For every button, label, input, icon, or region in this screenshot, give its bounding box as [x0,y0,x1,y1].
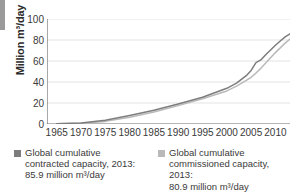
y-tick-0: 0 [38,119,44,130]
x-tick-1985: 1985 [143,127,165,139]
x-tick-1995: 1995 [191,127,213,139]
x-tick-1975: 1975 [94,127,116,139]
x-tick-1990: 1990 [167,127,189,139]
x-axis-tick-labels: 1965197019751980198519901995200020052010 [47,127,290,141]
legend-label-contracted: Global cumulative contracted capacity, 2… [25,147,135,181]
chart-svg [47,19,290,124]
legend-swatch-commissioned [158,150,165,157]
x-tick-1970: 1970 [70,127,92,139]
legend-item-contracted[interactable]: Global cumulative contracted capacity, 2… [14,147,148,195]
legend-label-commissioned-line1: Global cumulative [169,147,292,158]
chart-legend: Global cumulative contracted capacity, 2… [14,147,296,195]
x-tick-1980: 1980 [118,127,140,139]
legend-label-contracted-line2: contracted capacity, 2013: [25,158,135,169]
x-tick-2010: 2010 [264,127,286,139]
legend-label-commissioned: Global cumulative commissioned capacity,… [169,147,292,192]
legend-label-commissioned-line2: commissioned capacity, 2013: [169,158,292,180]
legend-label-commissioned-line3: 80.9 million m³/day [169,181,292,192]
x-tick-2005: 2005 [240,127,262,139]
capacity-line-chart-figure: Million m³/day 020406080100 196519701975… [0,0,296,196]
x-tick-1965: 1965 [46,127,68,139]
legend-label-contracted-line3: 85.9 million m³/day [25,169,135,180]
y-tick-20: 20 [33,98,44,109]
legend-label-contracted-line1: Global cumulative [25,147,135,158]
y-tick-100: 100 [27,14,44,25]
legend-item-commissioned[interactable]: Global cumulative commissioned capacity,… [158,147,292,195]
y-axis-tick-labels: 020406080100 [18,13,44,129]
y-tick-60: 60 [33,56,44,67]
chart-plot-region: Million m³/day 020406080100 196519701975… [0,0,296,144]
x-tick-2000: 2000 [216,127,238,139]
y-tick-80: 80 [33,35,44,46]
legend-swatch-contracted [14,150,21,157]
y-tick-40: 40 [33,77,44,88]
